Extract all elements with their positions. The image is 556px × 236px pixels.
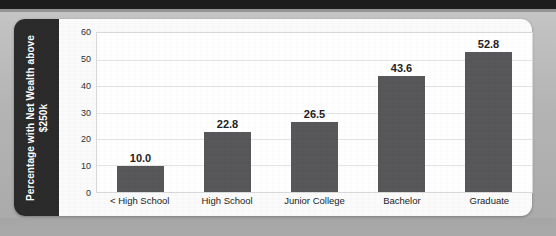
x-tick-label-graduate: Graduate xyxy=(446,195,533,206)
bar-less-than-high-school[interactable] xyxy=(117,166,164,193)
x-tick-label-junior-college: Junior College xyxy=(271,195,358,206)
bar-slot-graduate: 52.8 xyxy=(445,33,532,192)
bar-slot-bachelor: 43.6 xyxy=(358,33,445,192)
bar-graduate[interactable] xyxy=(465,52,512,192)
bar-value-junior-college: 26.5 xyxy=(304,108,325,120)
scan-edge-top xyxy=(0,0,556,9)
y-axis-title: Percentage with Net Wealth above $250k xyxy=(24,35,50,201)
plot-area: 10.0 22.8 26.5 43.6 xyxy=(96,32,533,193)
bar-value-high-school: 22.8 xyxy=(217,118,238,130)
y-tick-label-60: 60 xyxy=(81,27,91,37)
bar-bachelor[interactable] xyxy=(378,76,425,192)
bar-slot-high-school: 22.8 xyxy=(184,33,271,192)
plot-wrapper: 60 50 40 30 20 10 0 10.0 xyxy=(59,19,532,216)
y-axis-tick-labels: 60 50 40 30 20 10 0 xyxy=(65,32,91,193)
y-tick-label-0: 0 xyxy=(86,188,91,198)
y-tick-label-50: 50 xyxy=(81,54,91,64)
x-tick-label-bachelor: Bachelor xyxy=(358,195,445,206)
bar-value-graduate: 52.8 xyxy=(478,38,499,50)
bar-junior-college[interactable] xyxy=(291,122,338,192)
x-tick-label-high-school: High School xyxy=(183,195,270,206)
scan-edge-bottom xyxy=(0,218,556,236)
x-axis-tick-labels: < High School High School Junior College… xyxy=(96,195,533,206)
figure-root: Percentage with Net Wealth above $250k 6… xyxy=(0,0,556,236)
bar-slot-junior-college: 26.5 xyxy=(271,33,358,192)
bar-value-bachelor: 43.6 xyxy=(391,62,412,74)
y-axis-title-band: Percentage with Net Wealth above $250k xyxy=(14,19,59,216)
bar-slot-less-than-high-school: 10.0 xyxy=(97,33,184,192)
y-axis-title-line-1: Percentage with Net Wealth above xyxy=(24,35,37,201)
x-tick-label-less-than-high-school: < High School xyxy=(96,195,183,206)
chart-card: Percentage with Net Wealth above $250k 6… xyxy=(14,19,532,216)
y-tick-label-40: 40 xyxy=(81,81,91,91)
bar-high-school[interactable] xyxy=(204,132,251,192)
y-tick-label-30: 30 xyxy=(81,108,91,118)
bar-value-less-than-high-school: 10.0 xyxy=(130,152,151,164)
y-tick-label-20: 20 xyxy=(81,134,91,144)
y-axis-title-line-2: $250k xyxy=(37,35,50,201)
bars-layer: 10.0 22.8 26.5 43.6 xyxy=(97,33,532,192)
y-tick-label-10: 10 xyxy=(81,161,91,171)
